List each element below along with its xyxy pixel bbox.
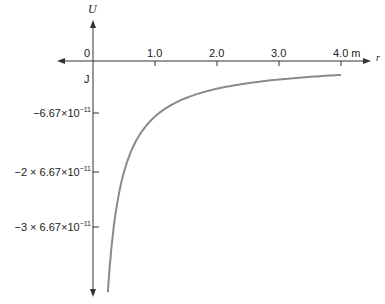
x-axis-left-arrow-icon — [57, 58, 65, 64]
y-tick-label-2-base: −2 × 6.67×10 — [14, 166, 79, 178]
origin-label: 0 — [84, 47, 90, 59]
potential-energy-curve — [108, 75, 341, 292]
y-tick-label-2: −2 × 6.67×10−11 — [14, 165, 91, 178]
y-unit-label: J — [84, 73, 90, 85]
y-tick-label-3: −3 × 6.67×10−11 — [14, 220, 91, 233]
x-tick-label-4: 4.0 m — [333, 47, 361, 59]
y-tick-label-1-exp: −11 — [80, 106, 91, 113]
y-tick-label-3-exp: −11 — [80, 220, 91, 227]
y-tick-label-2-exp: −11 — [80, 165, 91, 172]
y-axis-label: U — [88, 2, 97, 17]
y-axis-up-arrow-icon — [90, 20, 96, 28]
x-tick-label-2: 2.0 — [209, 47, 224, 59]
y-tick-label-3-base: −3 × 6.67×10 — [14, 221, 79, 233]
y-axis-down-arrow-icon — [90, 289, 96, 297]
y-tick-label-1-base: −6.67×10 — [33, 107, 80, 119]
x-tick-label-1: 1.0 — [147, 47, 162, 59]
x-tick-label-3: 3.0 — [271, 47, 286, 59]
chart-canvas — [0, 0, 385, 304]
x-axis-right-arrow-icon — [363, 58, 371, 64]
x-axis-label: r — [376, 52, 380, 63]
y-tick-label-1: −6.67×10−11 — [33, 106, 91, 119]
